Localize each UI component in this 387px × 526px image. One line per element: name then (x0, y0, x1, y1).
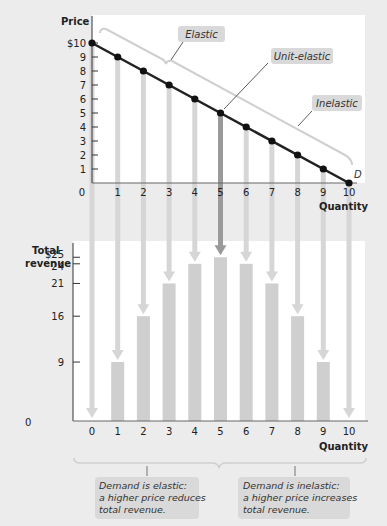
quantity-tick-label: 3 (166, 426, 172, 437)
total-revenue-elasticity-figure: Price $10987654321 012345678910 Quantity… (0, 0, 387, 526)
quantity-axis-title-bottom: Quantity (319, 441, 368, 452)
revenue-tick-label: 21 (51, 278, 64, 289)
revenue-bar (317, 362, 330, 421)
guide-bar (218, 113, 223, 247)
guide-bar (115, 57, 120, 352)
quantity-tick-label: 1 (115, 426, 121, 437)
price-tick-label: 5 (80, 108, 86, 119)
quantity-tick-label: 2 (140, 187, 146, 198)
quantity-tick-label: 6 (243, 426, 249, 437)
revenue-bar (291, 316, 304, 421)
inelastic-note-line1: Demand is inelastic: (243, 480, 340, 491)
elastic-note-line3: total revenue. (99, 504, 166, 515)
elastic-note-line1: Demand is elastic: (99, 480, 187, 491)
guide-bar (269, 141, 274, 273)
demand-point (294, 151, 301, 158)
quantity-tick-label: 7 (269, 426, 275, 437)
guide-bar (192, 99, 197, 254)
revenue-bar (188, 264, 201, 421)
inelastic-region-bracket (219, 458, 366, 468)
revenue-bar (214, 257, 227, 421)
revenue-bar (265, 283, 278, 421)
revenue-tick-label: $25 (45, 249, 64, 260)
quantity-tick-label: 5 (217, 426, 223, 437)
demand-curve-label: D (354, 169, 362, 180)
price-tick-label: 9 (80, 52, 86, 63)
inelastic-note-line2: a higher price increases (243, 492, 357, 503)
demand-point (243, 123, 250, 130)
price-tick-label: $10 (67, 38, 86, 49)
quantity-ticks-top: 012345678910 (79, 187, 356, 198)
quantity-tick-label: 0 (79, 187, 85, 198)
quantity-tick-label: 0 (89, 426, 95, 437)
revenue-tick-label: 9 (58, 357, 64, 368)
demand-point (191, 95, 198, 102)
demand-point (166, 81, 173, 88)
price-tick-label: 1 (80, 164, 86, 175)
revenue-bar (240, 264, 253, 421)
inelastic-note-line3: total revenue. (243, 504, 310, 515)
quantity-tick-label: 9 (320, 187, 326, 198)
demand-point (268, 137, 275, 144)
price-tick-label: 8 (80, 66, 86, 77)
revenue-origin-label: 0 (25, 417, 31, 428)
inelastic-callout: Inelastic (316, 98, 358, 109)
quantity-tick-label: 7 (269, 187, 275, 198)
elastic-note-line2: a higher price reduces (99, 492, 206, 503)
price-tick-label: 3 (80, 136, 86, 147)
demand-point (114, 53, 121, 60)
elastic-callout: Elastic (185, 29, 218, 40)
revenue-bar (163, 283, 176, 421)
revenue-tick-label: 16 (51, 311, 64, 322)
unit-elastic-callout: Unit-elastic (274, 51, 331, 62)
price-axis-title: Price (61, 16, 90, 27)
price-tick-label: 2 (80, 150, 86, 161)
price-tick-label: 4 (80, 122, 86, 133)
quantity-tick-label: 8 (294, 426, 300, 437)
elastic-region-bracket (74, 458, 219, 468)
guide-bar (167, 85, 172, 273)
demand-point (88, 39, 95, 46)
quantity-ticks-bottom: 012345678910 (89, 426, 356, 437)
revenue-bar (111, 362, 124, 421)
quantity-tick-label: 10 (343, 426, 356, 437)
quantity-tick-label: 5 (217, 187, 223, 198)
quantity-tick-label: 3 (166, 187, 172, 198)
guide-bar (347, 183, 352, 410)
demand-point (217, 109, 224, 116)
revenue-bar (137, 316, 150, 421)
price-tick-label: 7 (80, 80, 86, 91)
demand-point (320, 165, 327, 172)
quantity-tick-label: 10 (343, 187, 356, 198)
quantity-tick-label: 4 (192, 187, 198, 198)
price-tick-label: 6 (80, 94, 86, 105)
demand-point (140, 67, 147, 74)
quantity-tick-label: 6 (243, 187, 249, 198)
demand-point (345, 179, 352, 186)
quantity-tick-label: 8 (294, 187, 300, 198)
guide-bar (295, 155, 300, 306)
revenue-tick-label: 24 (51, 261, 64, 272)
quantity-tick-label: 1 (115, 187, 121, 198)
quantity-tick-label: 2 (140, 426, 146, 437)
quantity-axis-title-top: Quantity (319, 201, 368, 212)
quantity-tick-label: 9 (320, 426, 326, 437)
quantity-tick-label: 4 (192, 426, 198, 437)
